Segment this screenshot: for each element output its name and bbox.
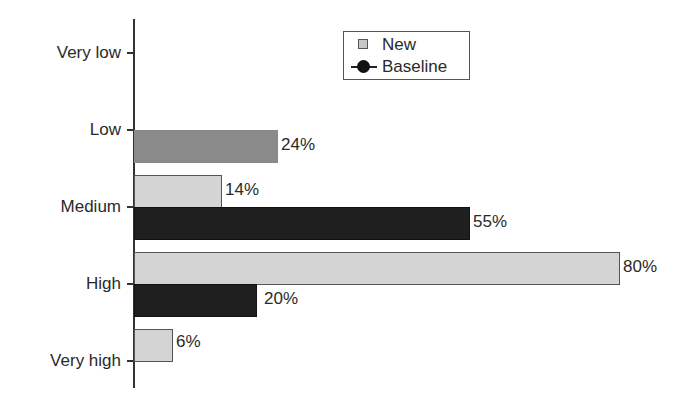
- bar-high-new: [134, 252, 620, 285]
- bar-chart: Very low Low Medium High Very high 24% 1…: [0, 0, 692, 409]
- circle-marker-icon: [357, 60, 370, 73]
- value-label-low-new: 24%: [281, 135, 315, 155]
- tick-high: [127, 283, 134, 285]
- value-label-medium-new: 14%: [225, 180, 259, 200]
- legend: New Baseline: [343, 31, 470, 80]
- value-label-very-high-new: 6%: [176, 332, 201, 352]
- legend-item-baseline: Baseline: [344, 56, 469, 78]
- category-label-low: Low: [90, 120, 121, 140]
- bar-high-baseline: [134, 284, 257, 317]
- category-label-very-low: Very low: [57, 43, 121, 63]
- category-label-very-high: Very high: [50, 351, 121, 371]
- category-label-high: High: [86, 274, 121, 294]
- value-label-high-baseline: 20%: [264, 289, 298, 309]
- bar-very-high-new: [134, 329, 173, 362]
- bar-low-new: [134, 130, 278, 163]
- bar-medium-baseline: [134, 207, 470, 240]
- legend-item-new: New: [344, 34, 469, 56]
- value-label-high-new: 80%: [623, 257, 657, 277]
- bar-medium-new: [134, 175, 222, 208]
- category-label-medium: Medium: [61, 197, 121, 217]
- value-label-medium-baseline: 55%: [473, 212, 507, 232]
- square-marker-icon: [358, 39, 368, 49]
- legend-label-new: New: [382, 35, 416, 55]
- legend-label-baseline: Baseline: [382, 57, 447, 77]
- tick-low: [127, 129, 134, 131]
- tick-very-low: [127, 52, 134, 54]
- tick-very-high: [127, 360, 134, 362]
- tick-medium: [127, 206, 134, 208]
